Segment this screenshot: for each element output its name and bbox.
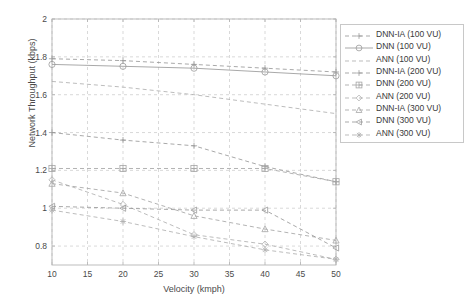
legend-marker-icon — [344, 90, 374, 102]
legend-label: DNN-IA (100 VU) — [374, 28, 441, 40]
x-tick-label: 35 — [218, 269, 242, 279]
legend-item-1[interactable]: DNN (100 VU) — [341, 40, 463, 52]
legend-marker-icon — [344, 53, 374, 65]
y-tick-label: 2 — [21, 14, 47, 24]
y-tick-label: 1.8 — [21, 52, 47, 62]
legend-marker-icon — [344, 28, 374, 40]
legend-marker-icon — [344, 114, 374, 126]
legend-item-4[interactable]: DNN (200 VU) — [341, 77, 463, 89]
legend-item-2[interactable]: ANN (100 VU) — [341, 53, 463, 65]
legend-item-6[interactable]: DNN-IA (300 VU) — [341, 102, 463, 114]
y-tick-label: 1.4 — [21, 128, 47, 138]
x-tick-label: 15 — [76, 269, 100, 279]
x-tick-label: 20 — [111, 269, 135, 279]
legend-marker-icon — [344, 102, 374, 114]
legend-item-7[interactable]: DNN (300 VU) — [341, 114, 463, 126]
y-tick-label: 0.8 — [21, 241, 47, 251]
legend-marker-icon — [344, 127, 374, 139]
x-tick-label: 45 — [289, 269, 313, 279]
legend-label: DNN (300 VU) — [374, 114, 431, 126]
legend-label: ANN (100 VU) — [374, 53, 430, 65]
x-tick-label: 40 — [253, 269, 277, 279]
x-tick-label: 10 — [40, 269, 64, 279]
chart-figure: Network Throughput (kbps) Velocity (kmph… — [0, 0, 467, 303]
legend-marker-icon — [344, 65, 374, 77]
legend-item-8[interactable]: ANN (300 VU) — [341, 126, 463, 138]
y-tick-label: 1.2 — [21, 165, 47, 175]
legend-label: DNN (100 VU) — [374, 40, 431, 52]
legend-label: ANN (300 VU) — [374, 127, 430, 139]
x-tick-label: 25 — [147, 269, 171, 279]
legend-label: ANN (200 VU) — [374, 90, 430, 102]
y-tick-label: 1 — [21, 203, 47, 213]
y-tick-label: 1.6 — [21, 90, 47, 100]
legend-marker-icon — [344, 77, 374, 89]
legend-label: DNN (200 VU) — [374, 77, 431, 89]
legend-item-5[interactable]: ANN (200 VU) — [341, 89, 463, 101]
legend-marker-icon — [344, 40, 374, 52]
legend-label: DNN-IA (300 VU) — [374, 102, 441, 114]
x-tick-label: 50 — [324, 269, 348, 279]
x-tick-label: 30 — [182, 269, 206, 279]
chart-legend: DNN-IA (100 VU)DNN (100 VU)ANN (100 VU)D… — [340, 24, 464, 143]
legend-item-0[interactable]: DNN-IA (100 VU) — [341, 28, 463, 40]
legend-item-3[interactable]: DNN-IA (200 VU) — [341, 65, 463, 77]
x-axis-label: Velocity (kmph) — [52, 284, 336, 294]
legend-label: DNN-IA (200 VU) — [374, 65, 441, 77]
